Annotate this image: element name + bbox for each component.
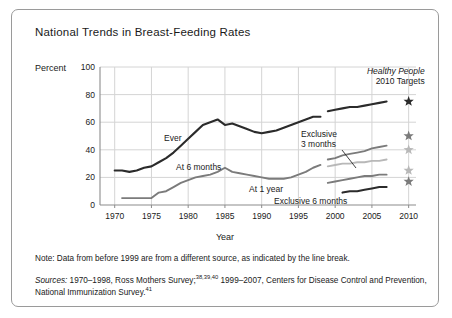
svg-text:0: 0 [90,200,95,210]
svg-text:Ever: Ever [164,133,182,143]
svg-text:At 1 year: At 1 year [249,184,283,194]
svg-text:Exclusive: Exclusive [301,129,337,139]
svg-text:80: 80 [86,90,96,100]
svg-text:2000: 2000 [326,211,345,221]
chart-note: Note: Data from before 1999 are from a d… [35,253,425,265]
svg-text:60: 60 [86,117,96,127]
svg-text:Exclusive 6 months: Exclusive 6 months [274,196,347,206]
sources-superscript-2: 41 [145,286,151,292]
figure-card: National Trends in Breast-Feeding Rates … [11,9,439,307]
chart-sources: Sources: 1970–1998, Ross Mothers Survey;… [35,275,427,299]
svg-text:40: 40 [86,145,96,155]
svg-text:1980: 1980 [179,211,198,221]
svg-text:2005: 2005 [362,211,381,221]
svg-text:3 months: 3 months [301,139,336,149]
x-tick-labels: 197019751980198519901995200020052010 [105,211,418,221]
data-series: Healthy People2010 TargetsEverAt 6 month… [115,66,425,206]
svg-text:2010 Targets: 2010 Targets [376,76,425,86]
svg-text:100: 100 [81,62,95,72]
svg-text:1975: 1975 [142,211,161,221]
svg-text:1990: 1990 [252,211,271,221]
sources-label: Sources: [35,276,67,285]
sources-superscript-1: 38,39,40 [196,274,219,280]
svg-text:1970: 1970 [105,211,124,221]
svg-text:1985: 1985 [215,211,234,221]
sources-part1: 1970–1998, Ross Mothers Survey; [67,276,195,285]
svg-text:20: 20 [86,172,96,182]
svg-text:Healthy People: Healthy People [367,66,425,76]
svg-text:At 6 months: At 6 months [176,162,221,172]
y-tick-labels: 020406080100 [81,62,95,210]
svg-text:2010: 2010 [399,211,418,221]
x-axis-title: Year [12,232,438,242]
svg-text:1995: 1995 [289,211,308,221]
